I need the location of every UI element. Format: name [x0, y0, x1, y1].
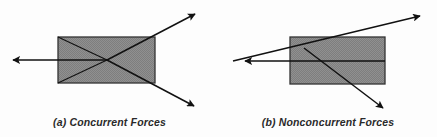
concurrency-point-a [106, 59, 108, 61]
panel-concurrent-forces: (a) Concurrent Forces [0, 0, 219, 137]
figure-root: (a) Concurrent Forces [0, 0, 437, 137]
panel-nonconcurrent-forces: (b) Nonconcurrent Forces [219, 0, 437, 137]
caption-nonconcurrent-forces: (b) Nonconcurrent Forces [219, 116, 437, 128]
caption-concurrent-forces: (a) Concurrent Forces [0, 116, 219, 128]
